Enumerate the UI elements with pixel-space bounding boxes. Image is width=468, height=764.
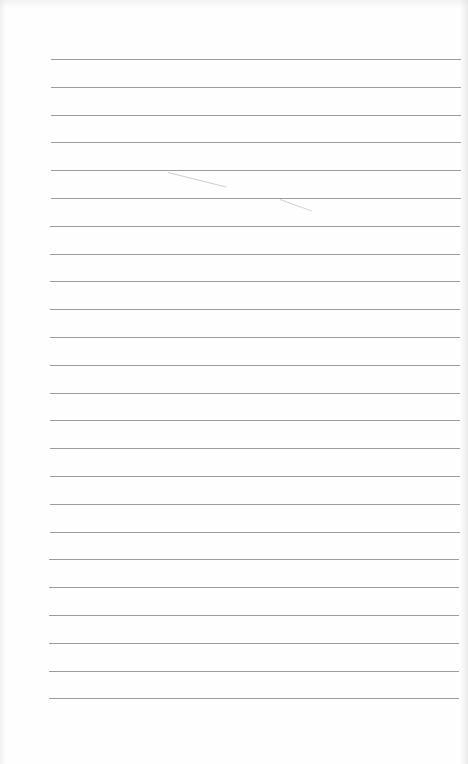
ruled-line bbox=[51, 115, 461, 116]
ruled-line bbox=[51, 170, 461, 171]
ruled-lines bbox=[0, 0, 468, 764]
ruled-line bbox=[51, 198, 461, 199]
ruled-line bbox=[49, 587, 459, 588]
ruled-line bbox=[49, 615, 459, 616]
ruled-line bbox=[49, 559, 459, 560]
ruled-line bbox=[49, 698, 459, 699]
ruled-line bbox=[50, 281, 460, 282]
faint-pencil-mark bbox=[168, 172, 226, 187]
ruled-line bbox=[50, 532, 460, 533]
faint-pencil-mark bbox=[280, 199, 312, 212]
ruled-line bbox=[51, 87, 461, 88]
ruled-line bbox=[50, 476, 460, 477]
ruled-line bbox=[50, 365, 460, 366]
ruled-line bbox=[50, 337, 460, 338]
ruled-line bbox=[49, 643, 459, 644]
notebook-page bbox=[0, 0, 468, 764]
ruled-line bbox=[50, 226, 460, 227]
ruled-line bbox=[50, 254, 460, 255]
ruled-line bbox=[50, 420, 460, 421]
ruled-line bbox=[50, 393, 460, 394]
ruled-line bbox=[50, 309, 460, 310]
ruled-line bbox=[50, 504, 460, 505]
ruled-line bbox=[51, 142, 461, 143]
ruled-line bbox=[51, 59, 461, 60]
ruled-line bbox=[50, 448, 460, 449]
ruled-line bbox=[49, 671, 459, 672]
